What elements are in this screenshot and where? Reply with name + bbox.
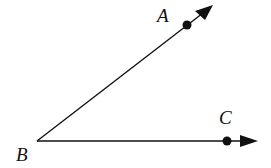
ray-bc-arrowhead-icon (240, 135, 258, 147)
ray-ba-line (37, 13, 203, 141)
label-a: A (155, 5, 169, 26)
angle-diagram: A C B (0, 0, 271, 168)
point-c-dot (223, 137, 232, 146)
label-c: C (219, 107, 232, 128)
label-b: B (16, 144, 28, 165)
point-a-dot (183, 21, 192, 30)
